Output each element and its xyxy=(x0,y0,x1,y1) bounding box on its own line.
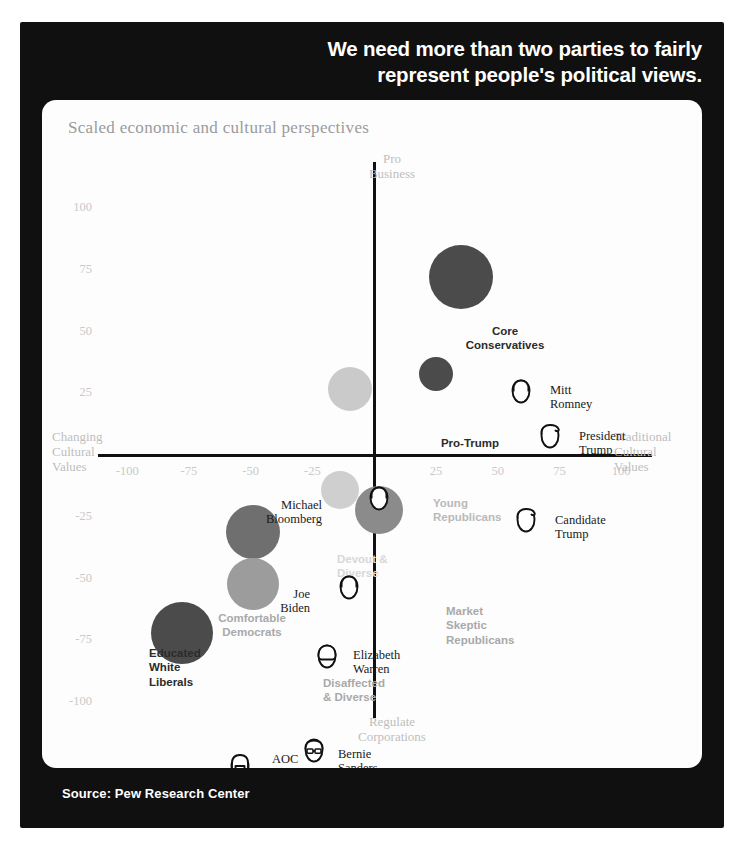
person-label-line: Trump xyxy=(555,527,606,541)
y-tick-label: -75 xyxy=(56,632,92,647)
axis-caption-left: ChangingCulturalValues xyxy=(52,430,136,475)
person-label-line: AOC xyxy=(272,752,298,766)
person-label-line: Joe xyxy=(224,587,310,601)
y-tick-label: -25 xyxy=(56,509,92,524)
axis-caption-line: Regulate xyxy=(327,715,457,730)
face-icon-elizabeth-warren xyxy=(314,643,341,674)
face-icon-president-trump xyxy=(537,423,564,454)
chart-card: Scaled economic and cultural perspective… xyxy=(42,100,702,768)
cluster-label: Disaffected& Diverse xyxy=(323,676,423,705)
face-icon-candidate-trump xyxy=(513,507,540,538)
page-title: We need more than two parties to fairly … xyxy=(250,36,702,88)
person-label-line: President xyxy=(579,429,626,443)
cluster-label-line: White xyxy=(149,660,239,674)
person-label-line: Romney xyxy=(550,397,592,411)
cluster-label-line: Pro-Trump xyxy=(425,436,515,450)
x-tick-label: -75 xyxy=(169,464,209,479)
face-icon-mitt-romney xyxy=(508,378,535,409)
person-label-line: Michael xyxy=(236,498,322,512)
axis-caption-top: ProBusiness xyxy=(342,152,442,182)
cluster-label-line: Educated xyxy=(149,646,239,660)
axis-caption-line: Cultural xyxy=(614,445,702,460)
person-label-joe-biden: JoeBiden xyxy=(224,587,310,616)
y-tick-label: -100 xyxy=(56,694,92,709)
bubble-young-republicans[interactable] xyxy=(328,367,372,411)
y-tick-label: 50 xyxy=(56,324,92,339)
face-icon-joe-biden xyxy=(336,574,363,605)
cluster-label: EducatedWhiteLiberals xyxy=(149,646,239,689)
person-label-line: Elizabeth xyxy=(353,648,400,662)
face-icon-aoc xyxy=(227,753,254,769)
person-label-candidate-trump: CandidateTrump xyxy=(555,513,606,542)
cluster-label-line: Market xyxy=(446,604,556,618)
person-label-line: Sanders xyxy=(338,761,378,768)
person-label-line: Biden xyxy=(224,601,310,615)
person-label-line: Warren xyxy=(353,662,400,676)
cluster-label-line: Core xyxy=(450,324,560,338)
face-icon-michael-bloomberg xyxy=(366,485,393,516)
axis-caption-line: Values xyxy=(52,460,136,475)
cluster-label: MarketSkepticRepublicans xyxy=(446,604,556,647)
x-tick-label: 75 xyxy=(539,464,579,479)
person-label-aoc: AOC xyxy=(272,752,298,766)
y-tick-label: 100 xyxy=(56,200,92,215)
axis-caption-line: Pro xyxy=(342,152,442,167)
axis-caption-line: Business xyxy=(342,167,442,182)
person-label-bernie-sanders: BernieSanders xyxy=(338,747,378,768)
axis-caption-line: Cultural xyxy=(52,445,136,460)
person-label-elizabeth-warren: ElizabethWarren xyxy=(353,648,400,677)
bubble-core-conservatives[interactable] xyxy=(429,245,493,309)
cluster-label: CoreConservatives xyxy=(450,324,560,353)
axis-caption-line: Corporations xyxy=(327,730,457,745)
person-label-president-trump: PresidentTrump xyxy=(579,429,626,458)
person-label-michael-bloomberg: MichaelBloomberg xyxy=(236,498,322,527)
axis-caption-line: Values xyxy=(614,460,702,475)
infographic-frame: We need more than two parties to fairly … xyxy=(0,0,744,845)
scatter-plot: -100-75-50-25255075100 100755025-25-50-7… xyxy=(42,100,702,768)
y-tick-label: 75 xyxy=(56,262,92,277)
axis-caption-right: TraditionalCulturalValues xyxy=(614,430,702,475)
person-label-line: Candidate xyxy=(555,513,606,527)
cluster-label-line: Democrats xyxy=(202,625,302,639)
bubble-devout-diverse[interactable] xyxy=(321,471,359,509)
cluster-label-line: Skeptic xyxy=(446,618,556,632)
person-label-line: Mitt xyxy=(550,383,592,397)
y-tick-label: 25 xyxy=(56,385,92,400)
cluster-label-line: Disaffected xyxy=(323,676,423,690)
person-label-mitt-romney: MittRomney xyxy=(550,383,592,412)
cluster-label-line: Republicans xyxy=(446,633,556,647)
cluster-label-line: & Diverse xyxy=(323,690,423,704)
face-icon-bernie-sanders xyxy=(301,737,328,768)
axis-caption-line: Traditional xyxy=(614,430,702,445)
axis-caption-bottom: RegulateCorporations xyxy=(327,715,457,745)
person-label-line: Trump xyxy=(579,443,626,457)
y-tick-label: -50 xyxy=(56,571,92,586)
source-credit: Source: Pew Research Center xyxy=(62,786,250,801)
person-label-line: Bloomberg xyxy=(236,512,322,526)
bubble-pro-trump[interactable] xyxy=(419,357,453,391)
cluster-label-line: Devout & xyxy=(337,552,427,566)
cluster-label-line: Conservatives xyxy=(450,338,560,352)
cluster-label-line: Liberals xyxy=(149,675,239,689)
x-tick-label: -50 xyxy=(231,464,271,479)
cluster-label: Pro-Trump xyxy=(425,436,515,450)
y-axis-line xyxy=(373,162,376,718)
axis-caption-line: Changing xyxy=(52,430,136,445)
x-tick-label: 50 xyxy=(478,464,518,479)
x-tick-label: 25 xyxy=(416,464,456,479)
person-label-line: Bernie xyxy=(338,747,378,761)
